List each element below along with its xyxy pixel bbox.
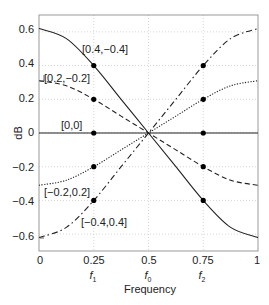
data-point — [91, 198, 96, 203]
data-point — [201, 97, 206, 102]
x-tick: 0.75 — [192, 254, 213, 266]
y-tick: 0 — [28, 126, 34, 138]
y-tick: −0.4 — [12, 195, 34, 207]
frequency-response-chart: 0.6 0.4 0.2 0 −0.2 −0.4 −0.6 0 0.25 0.5 … — [0, 0, 269, 305]
x-tick: 0.5 — [141, 254, 156, 266]
series-label: [0.2,−0.2] — [44, 72, 90, 84]
x-axis-label: Frequency — [124, 283, 176, 295]
y-axis-label: dB — [12, 126, 24, 139]
y-tick: 0.6 — [19, 23, 34, 35]
data-point — [201, 198, 206, 203]
y-tick: 0.4 — [19, 57, 34, 69]
x-tick: 1 — [254, 254, 260, 266]
f0-label: f0 — [145, 269, 152, 283]
series-label: [−0.4,0.4] — [81, 216, 127, 228]
x-tick: 0 — [37, 254, 43, 266]
data-point — [201, 63, 206, 68]
x-tick-labels: 0 0.25 0.5 0.75 1 — [37, 254, 260, 266]
series-label: [−0.2,0.2] — [44, 186, 90, 198]
data-point — [91, 164, 96, 169]
frequency-markers: f1 f0 f2 — [90, 269, 206, 283]
data-point — [201, 130, 206, 135]
y-tick: −0.2 — [12, 161, 34, 173]
data-point — [91, 97, 96, 102]
f1-label: f1 — [90, 269, 97, 283]
f2-label: f2 — [199, 269, 206, 283]
y-tick: −0.6 — [12, 230, 34, 242]
curves — [39, 28, 258, 237]
x-tick: 0.25 — [83, 254, 104, 266]
data-point — [91, 130, 96, 135]
y-tick: 0.2 — [19, 92, 34, 104]
series-label: [0,0] — [61, 119, 82, 131]
series-label: [0.4,−0.4] — [82, 43, 128, 55]
data-point — [201, 164, 206, 169]
series-labels: [0.4,−0.4] [0.2,−0.2] [0,0] [−0.2,0.2] [… — [44, 43, 128, 228]
data-point — [91, 63, 96, 68]
